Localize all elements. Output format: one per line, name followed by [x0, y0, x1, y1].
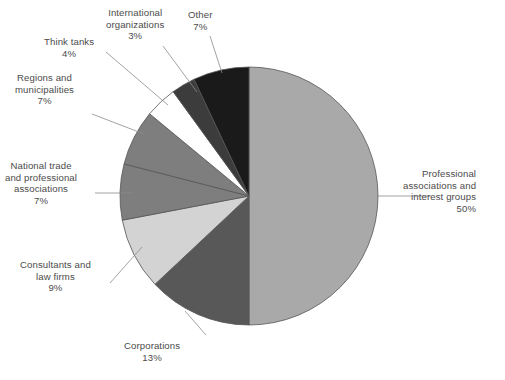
pie-slice-label-line: Consultants and — [20, 259, 91, 271]
leader-line — [92, 114, 144, 134]
pie-slice[interactable] — [249, 67, 378, 325]
pie-slice-value: 3% — [106, 30, 164, 42]
pie-slice-label: Consultants andlaw firms9% — [20, 259, 91, 294]
pie-slice-label: Regions andmunicipalities7% — [15, 72, 74, 107]
pie-slice-value: 7% — [5, 195, 77, 207]
pie-slice-label-line: interest groups — [403, 191, 476, 203]
leader-line — [163, 46, 197, 92]
pie-slice-label: Think tanks4% — [44, 36, 94, 59]
pie-slice-label-line: Professional — [403, 168, 476, 180]
pie-slice-label-line: organizations — [106, 19, 164, 31]
pie-chart-figure: Professionalassociations andinterest gro… — [0, 0, 505, 380]
pie-slice-label-line: and professional — [5, 172, 77, 184]
pie-slice-label-line: Think tanks — [44, 36, 94, 48]
pie-slice-label-line: Regions and — [15, 72, 74, 84]
pie-slice-value: 7% — [188, 21, 213, 33]
pie-slice-label-line: associations — [5, 183, 77, 195]
pie-slice-label: Internationalorganizations3% — [106, 7, 164, 42]
pie-slice-label-line: International — [106, 7, 164, 19]
leader-line — [106, 52, 168, 105]
pie-slice-label-line: National trade — [5, 160, 77, 172]
pie-slice-label-line: Corporations — [124, 340, 180, 352]
pie-slice-value: 13% — [124, 352, 180, 364]
pie-slice-label-line: law firms — [20, 271, 91, 283]
pie-slice-value: 4% — [44, 48, 94, 60]
leader-line — [110, 247, 142, 283]
pie-slice-value: 9% — [20, 282, 91, 294]
pie-slice-label: Other7% — [188, 9, 213, 32]
pie-slice-value: 50% — [403, 203, 476, 215]
pie-slices-group — [120, 67, 378, 325]
pie-slice-label-line: Other — [188, 9, 213, 21]
pie-slice-label-line: associations and — [403, 180, 476, 192]
leader-line — [210, 36, 222, 73]
pie-slice-label-line: municipalities — [15, 84, 74, 96]
pie-slice-label: Corporations13% — [124, 340, 180, 363]
pie-slice-label: National tradeand professionalassociatio… — [5, 160, 77, 206]
pie-slice-value: 7% — [15, 95, 74, 107]
pie-slice-label: Professionalassociations andinterest gro… — [403, 168, 476, 214]
